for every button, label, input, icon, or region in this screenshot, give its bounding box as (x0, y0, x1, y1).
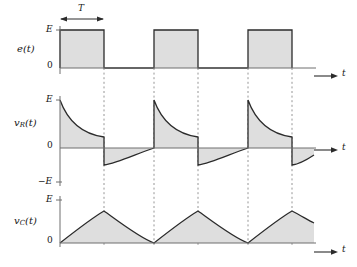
panel-capacitor (56, 196, 338, 255)
source-time-axis-label: t (342, 69, 346, 78)
source-signal-label: e(t) (17, 44, 35, 55)
capacitor-time-axis-label: t (342, 245, 346, 254)
source-axis-label-E: E (46, 25, 53, 34)
capacitor-fill (60, 211, 314, 243)
source-t-axis-arrow (314, 73, 338, 78)
resistor-signal-label: vR(t) (14, 118, 37, 129)
resistor-time-axis-label: t (342, 143, 346, 152)
capacitor-signal-label: vC(t) (14, 216, 37, 227)
waveform-plot-group (0, 0, 357, 267)
source-signal-arg: (t) (23, 43, 35, 54)
resistor-axis-label-zero: 0 (47, 141, 53, 150)
panel-resistor (56, 96, 338, 186)
resistor-t-axis-arrow (314, 147, 338, 152)
resistor-fill-positive (60, 100, 292, 148)
resistor-signal-arg: (t) (25, 117, 37, 128)
period-label: T (78, 4, 84, 13)
panel-source (56, 14, 338, 79)
capacitor-t-axis-arrow (314, 249, 338, 254)
resistor-waveform (60, 100, 314, 165)
period-marker (60, 14, 104, 24)
figure-canvas: T E 0 e(t) t E 0 −E vR(t) t E 0 vC(t) t (0, 0, 357, 267)
source-fill (60, 30, 292, 68)
resistor-axis-label-negE: −E (38, 177, 52, 186)
capacitor-axis-label-E: E (46, 195, 53, 204)
resistor-axis-label-E: E (46, 95, 53, 104)
capacitor-axis-label-zero: 0 (47, 236, 53, 245)
source-axis-label-zero: 0 (47, 61, 53, 70)
capacitor-signal-arg: (t) (25, 215, 37, 226)
